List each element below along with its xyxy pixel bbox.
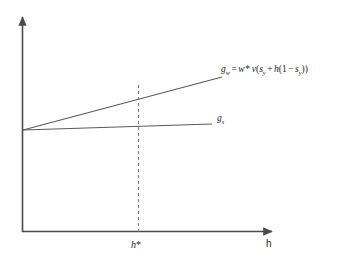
- gs-subscript: s: [222, 118, 224, 125]
- curve-g-s: [23, 124, 212, 130]
- h-axis-label: h: [266, 239, 272, 249]
- h-star-label: h*: [131, 240, 141, 250]
- plot-canvas: [0, 0, 341, 265]
- curve-label-g-w: gw=w* v(sy+h(1−sy)): [221, 65, 308, 76]
- figure-container: gw=w* v(sy+h(1−sy)) gs h* h: [0, 0, 341, 265]
- gw-one: 1: [282, 64, 287, 74]
- gw-plus: +: [266, 64, 274, 74]
- hstar-star: *: [136, 239, 141, 250]
- gw-minus: −: [287, 64, 295, 74]
- gw-close-paren: ): [305, 64, 308, 74]
- curve-g-w: [23, 77, 222, 130]
- curve-label-g-s: gs: [217, 114, 224, 125]
- gw-w-star: w*: [238, 64, 249, 74]
